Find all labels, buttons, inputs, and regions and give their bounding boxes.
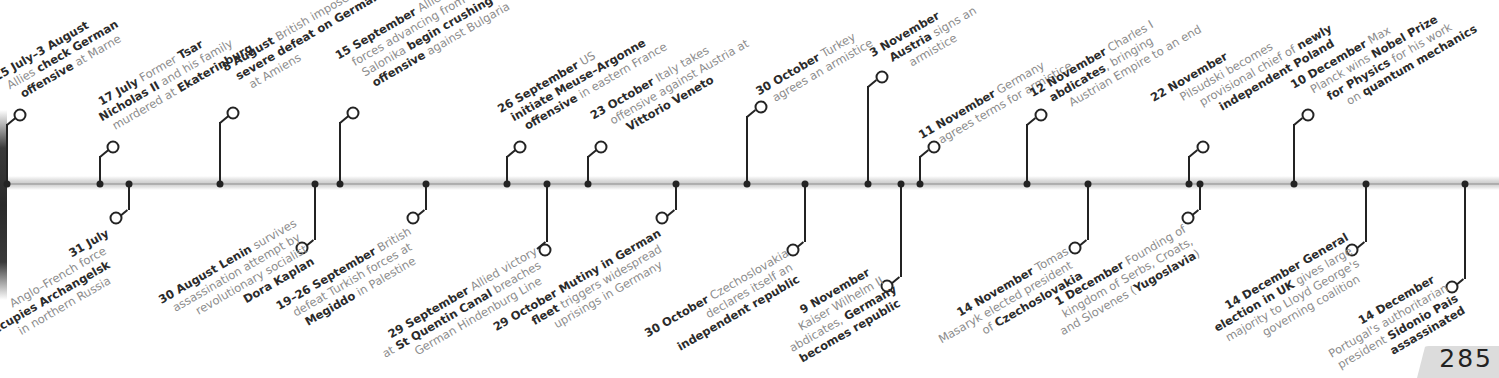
connector-line <box>99 156 101 184</box>
connector-line <box>506 156 508 184</box>
connector-line <box>900 184 902 277</box>
connector-line <box>1199 184 1201 210</box>
connector-line <box>314 184 316 240</box>
event-marker-ring <box>110 212 123 225</box>
page-number: 285 <box>1439 344 1493 373</box>
connector-line <box>746 116 748 184</box>
connector-line <box>546 184 548 242</box>
event-marker-ring <box>227 107 240 120</box>
event-marker-ring <box>539 244 552 257</box>
event-label: 3 November Austria signs an armistice <box>867 0 986 84</box>
connector-line <box>1026 124 1028 184</box>
connector-line <box>425 184 427 210</box>
connector-line <box>587 156 589 184</box>
connector-line <box>128 184 130 210</box>
connector-line <box>919 156 921 184</box>
connector-line <box>1464 184 1466 279</box>
event-marker-ring <box>1197 141 1210 154</box>
event-marker-ring <box>407 212 420 225</box>
event-marker-ring <box>656 212 669 225</box>
connector-line <box>339 122 341 184</box>
event-marker-ring <box>1069 242 1082 255</box>
event-label: 30 October Turkey agrees an armistice <box>750 24 875 112</box>
connector-line <box>6 124 8 184</box>
connector-line <box>1188 156 1190 184</box>
event-marker-ring <box>347 107 360 120</box>
connector-line <box>219 122 221 184</box>
connector-line <box>675 184 677 210</box>
connector-line <box>867 86 869 184</box>
connector-line <box>1365 184 1367 242</box>
connector-line <box>1293 124 1295 184</box>
connector-line <box>1087 184 1089 240</box>
connector-line <box>804 184 806 242</box>
event-label: 31 July Anglo–French force occupies Arch… <box>0 226 132 352</box>
event-marker-ring <box>514 141 527 154</box>
event-marker-ring <box>14 109 27 122</box>
event-marker-ring <box>1182 212 1195 225</box>
event-marker-ring <box>107 141 120 154</box>
